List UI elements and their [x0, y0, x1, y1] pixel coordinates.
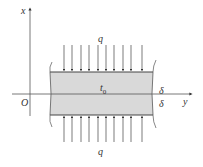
bottom-heat-flux-label: q: [98, 147, 103, 157]
center-temperature-subscript: 0: [103, 88, 107, 96]
x-axis-label: x: [21, 6, 25, 16]
top-heat-flux-label: q: [98, 34, 103, 44]
y-axis-label: y: [183, 97, 187, 107]
center-temperature-label: t0: [100, 83, 106, 96]
half-thickness-bottom-label: δ: [159, 99, 164, 109]
heat-flux-arrows-top: [64, 45, 142, 70]
heat-flux-arrows-bottom: [64, 117, 142, 142]
half-thickness-top-label: δ: [159, 86, 164, 96]
origin-label: O: [21, 98, 28, 108]
